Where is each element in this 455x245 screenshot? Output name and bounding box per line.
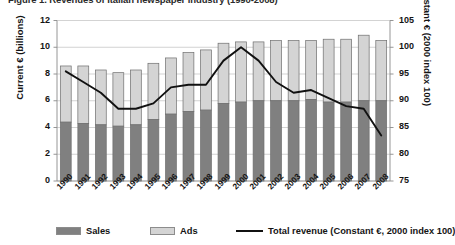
bar-segment-ads (323, 39, 334, 102)
bar-segment-ads (148, 63, 159, 119)
legend-item-ads: Ads (150, 224, 198, 237)
legend-label-sales: Sales (86, 226, 110, 236)
legend-item-sales: Sales (56, 224, 110, 237)
legend-label-total-revenue: Total revenue (Constant €, 2000 index 10… (268, 226, 455, 236)
sales-swatch-icon (56, 227, 81, 235)
bar-segment-ads (341, 39, 352, 102)
ads-swatch-icon (150, 227, 175, 235)
bar-segment-sales (183, 111, 194, 181)
bar-segment-sales (323, 102, 334, 181)
bar-segment-sales (306, 99, 317, 181)
bar-segment-ads (271, 41, 282, 101)
bar-segment-ads (376, 41, 387, 101)
bar-segment-ads (78, 66, 89, 124)
line-swatch-icon (236, 230, 263, 232)
bar-segment-ads (183, 53, 194, 112)
bar-segment-ads (253, 42, 264, 101)
bar-segment-sales (358, 101, 369, 181)
bar-segment-sales (271, 101, 282, 181)
bar-segment-ads (358, 35, 369, 101)
bar-segment-ads (218, 43, 229, 103)
bar-segment-ads (113, 73, 124, 127)
bar-segment-sales (236, 102, 247, 181)
bar-segment-ads (130, 70, 141, 125)
legend-label-ads: Ads (180, 226, 198, 236)
bar-segment-sales (218, 103, 229, 181)
bar-segment-sales (253, 101, 264, 181)
bar-segment-sales (341, 102, 352, 181)
bar-segment-sales (201, 110, 212, 181)
bar-segment-sales (376, 101, 387, 181)
bar-segment-sales (288, 101, 299, 181)
legend-item-total-revenue: Total revenue (Constant €, 2000 index 10… (236, 224, 455, 237)
